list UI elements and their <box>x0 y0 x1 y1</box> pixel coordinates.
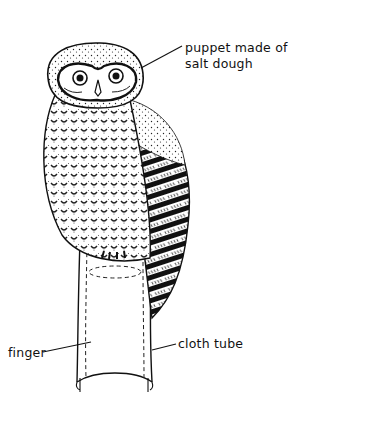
label-finger: finger <box>8 345 46 360</box>
owl-head <box>48 43 143 108</box>
cloth-tube <box>76 240 152 392</box>
label-cloth-tube: cloth tube <box>178 336 243 351</box>
finger-outline <box>86 246 144 378</box>
leader-line-finger <box>43 342 91 352</box>
label-puppet-line1: puppet made of <box>185 40 288 55</box>
leader-line-cloth-tube <box>152 344 176 350</box>
label-puppet-line2: salt dough <box>185 56 253 71</box>
leader-line-puppet <box>141 46 182 68</box>
owl-body <box>44 95 190 318</box>
